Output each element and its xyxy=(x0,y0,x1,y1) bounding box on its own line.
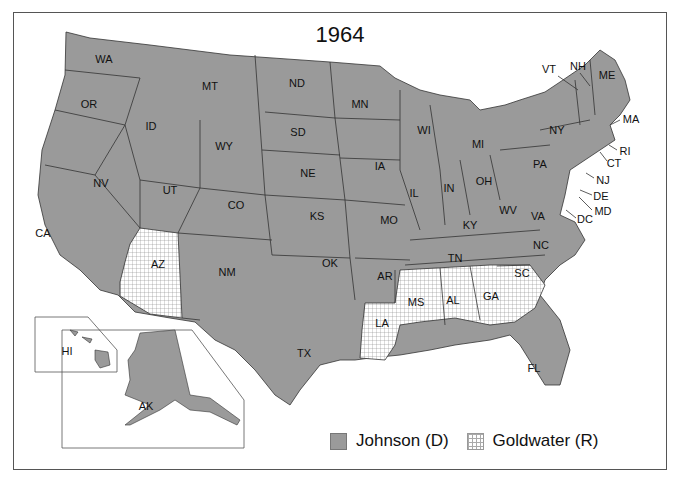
label-ky: KY xyxy=(463,219,478,231)
label-me: ME xyxy=(599,69,616,81)
label-mn: MN xyxy=(351,98,368,110)
label-tn: TN xyxy=(448,252,463,264)
label-md: MD xyxy=(594,205,611,217)
label-fl: FL xyxy=(528,362,541,374)
label-sc: SC xyxy=(514,267,529,279)
label-mt: MT xyxy=(202,80,218,92)
label-oh: OH xyxy=(476,175,493,187)
label-ok: OK xyxy=(322,257,339,269)
label-de: DE xyxy=(593,190,608,202)
label-ga: GA xyxy=(483,290,500,302)
label-al: AL xyxy=(446,294,459,306)
label-wa: WA xyxy=(95,53,113,65)
label-nv: NV xyxy=(93,177,109,189)
label-nd: ND xyxy=(289,77,305,89)
label-nj: NJ xyxy=(596,174,609,186)
label-ut: UT xyxy=(163,184,178,196)
legend-label-goldwater: Goldwater (R) xyxy=(493,431,599,451)
label-ma: MA xyxy=(623,113,640,125)
label-id: ID xyxy=(146,120,157,132)
label-hi: HI xyxy=(62,345,73,357)
label-ne: NE xyxy=(300,167,315,179)
label-tx: TX xyxy=(297,347,312,359)
label-ct: CT xyxy=(607,157,622,169)
us-electoral-map: WA OR CA NV ID MT WY UT CO AZ NM ND SD N… xyxy=(0,0,680,483)
label-ia: IA xyxy=(375,160,386,172)
label-mo: MO xyxy=(380,214,398,226)
label-dc: DC xyxy=(577,213,593,225)
label-nm: NM xyxy=(218,266,235,278)
label-il: IL xyxy=(409,187,418,199)
label-pa: PA xyxy=(533,158,548,170)
label-az: AZ xyxy=(151,258,165,270)
label-nc: NC xyxy=(533,239,549,251)
label-in: IN xyxy=(444,182,455,194)
johnson-swatch-icon xyxy=(330,433,347,450)
goldwater-swatch-icon xyxy=(467,433,484,450)
label-wi: WI xyxy=(417,124,430,136)
legend-item-johnson: Johnson (D) xyxy=(330,431,449,451)
label-ar: AR xyxy=(377,270,392,282)
label-nh: NH xyxy=(570,60,586,72)
label-co: CO xyxy=(228,199,245,211)
label-va: VA xyxy=(531,210,546,222)
label-or: OR xyxy=(81,98,98,110)
legend: Johnson (D) Goldwater (R) xyxy=(330,431,616,451)
label-ms: MS xyxy=(408,296,425,308)
label-ny: NY xyxy=(549,124,565,136)
label-sd: SD xyxy=(290,126,305,138)
label-wv: WV xyxy=(499,204,517,216)
label-vt: VT xyxy=(542,63,556,75)
label-la: LA xyxy=(375,317,389,329)
label-ca: CA xyxy=(35,227,51,239)
label-mi: MI xyxy=(472,138,484,150)
label-ak: AK xyxy=(139,400,154,412)
label-ri: RI xyxy=(620,145,631,157)
legend-label-johnson: Johnson (D) xyxy=(356,431,449,451)
legend-item-goldwater: Goldwater (R) xyxy=(467,431,599,451)
label-ks: KS xyxy=(310,210,325,222)
label-wy: WY xyxy=(215,140,233,152)
